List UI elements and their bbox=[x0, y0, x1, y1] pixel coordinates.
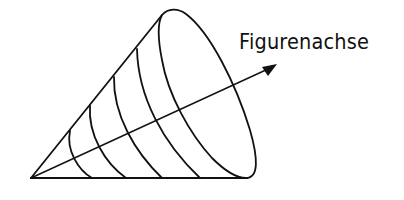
figure-axis-arrowhead-icon bbox=[262, 64, 277, 76]
cone-upper-edge bbox=[31, 15, 162, 178]
cone-ring-4 bbox=[137, 49, 200, 178]
figure-axis-line bbox=[31, 69, 268, 178]
cone-ring-3 bbox=[114, 77, 162, 178]
figure-axis-label: Figurenachse bbox=[239, 30, 369, 54]
